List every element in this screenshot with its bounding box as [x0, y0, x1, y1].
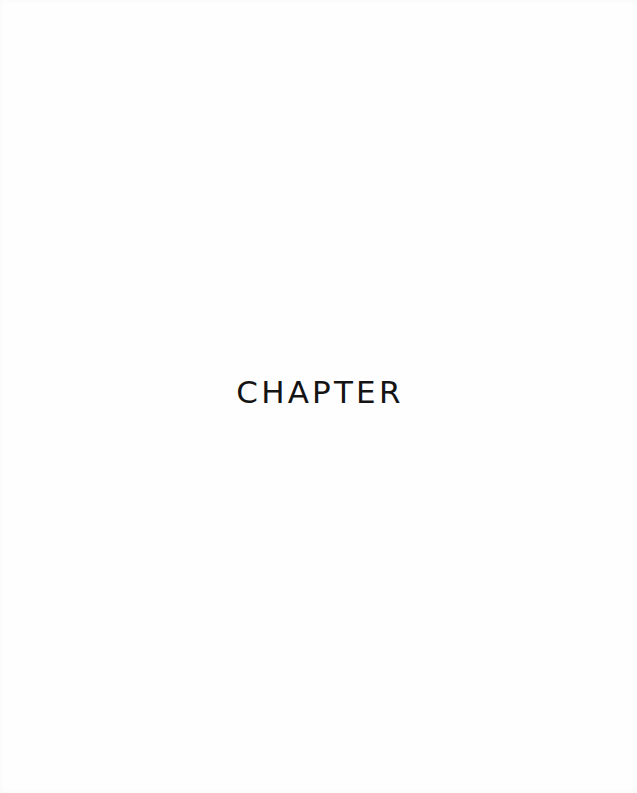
document-page: CHAPTER: [0, 0, 637, 793]
chapter-heading: CHAPTER: [0, 374, 637, 410]
